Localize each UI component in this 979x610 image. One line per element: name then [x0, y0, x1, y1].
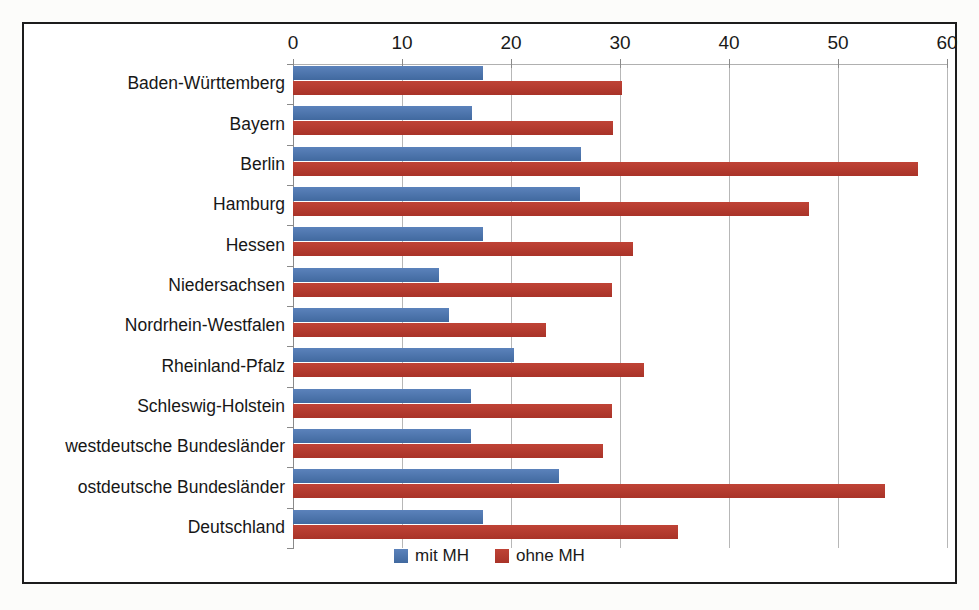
- bar-ohne-mh: [293, 323, 546, 337]
- bar-mit-mh: [293, 429, 471, 443]
- bar-mit-mh: [293, 469, 559, 483]
- bar-group: [293, 508, 947, 548]
- chart-legend: mit MHohne MH: [24, 546, 955, 566]
- bar-group: [293, 467, 947, 507]
- x-tick-label-0: 0: [288, 32, 299, 54]
- bar-mit-mh: [293, 348, 514, 362]
- category-label: Hessen: [226, 237, 285, 255]
- x-axis-tick-labels: 0102030405060: [293, 32, 947, 62]
- x-tick-label-40: 40: [718, 32, 739, 54]
- bar-ohne-mh: [293, 162, 918, 176]
- y-axis-category-labels: Baden-WürttembergBayernBerlinHamburgHess…: [34, 64, 285, 548]
- bar-group: [293, 104, 947, 144]
- category-label: Hamburg: [213, 196, 285, 214]
- category-label: Berlin: [240, 156, 285, 174]
- category-label: westdeutsche Bundesländer: [65, 438, 285, 456]
- plot-area: [293, 64, 947, 548]
- legend-swatch-icon: [495, 549, 509, 563]
- bar-ohne-mh: [293, 363, 644, 377]
- bar-mit-mh: [293, 106, 472, 120]
- bar-ohne-mh: [293, 202, 809, 216]
- x-tick-mark-60: [947, 59, 948, 68]
- category-label: Bayern: [230, 116, 285, 134]
- legend-label: mit MH: [415, 546, 469, 566]
- bar-mit-mh: [293, 389, 471, 403]
- bar-group: [293, 346, 947, 386]
- chart-screenshot: 0102030405060 Baden-WürttembergBayernBer…: [0, 0, 979, 610]
- bar-mit-mh: [293, 268, 439, 282]
- legend-item-mit-mh[interactable]: mit MH: [394, 546, 469, 566]
- bar-ohne-mh: [293, 242, 633, 256]
- gridline-60: [947, 64, 948, 548]
- x-tick-label-30: 30: [609, 32, 630, 54]
- category-label: Schleswig-Holstein: [137, 398, 285, 416]
- category-label: Deutschland: [188, 519, 285, 537]
- category-label: Niedersachsen: [168, 277, 285, 295]
- bar-mit-mh: [293, 187, 580, 201]
- bar-group: [293, 387, 947, 427]
- bar-ohne-mh: [293, 404, 612, 418]
- bar-mit-mh: [293, 227, 483, 241]
- bar-mit-mh: [293, 147, 581, 161]
- bar-group: [293, 306, 947, 346]
- bar-ohne-mh: [293, 444, 603, 458]
- bar-mit-mh: [293, 308, 449, 322]
- category-label: ostdeutsche Bundesländer: [78, 479, 285, 497]
- bar-group: [293, 185, 947, 225]
- legend-label: ohne MH: [516, 546, 585, 566]
- bar-group: [293, 266, 947, 306]
- legend-swatch-icon: [394, 549, 408, 563]
- bar-ohne-mh: [293, 525, 678, 539]
- bar-group: [293, 145, 947, 185]
- x-tick-label-10: 10: [391, 32, 412, 54]
- bar-group: [293, 64, 947, 104]
- bar-ohne-mh: [293, 283, 612, 297]
- bar-ohne-mh: [293, 81, 622, 95]
- bar-ohne-mh: [293, 484, 885, 498]
- category-label: Baden-Württemberg: [127, 75, 285, 93]
- bar-mit-mh: [293, 66, 483, 80]
- x-tick-label-50: 50: [827, 32, 848, 54]
- bar-group: [293, 225, 947, 265]
- x-tick-label-20: 20: [500, 32, 521, 54]
- category-label: Rheinland-Pfalz: [161, 358, 285, 376]
- bar-ohne-mh: [293, 121, 613, 135]
- category-label: Nordrhein-Westfalen: [125, 317, 285, 335]
- legend-item-ohne-mh[interactable]: ohne MH: [495, 546, 585, 566]
- chart-frame: 0102030405060 Baden-WürttembergBayernBer…: [22, 22, 957, 584]
- bar-mit-mh: [293, 510, 483, 524]
- bar-group: [293, 427, 947, 467]
- x-tick-label-60: 60: [936, 32, 957, 54]
